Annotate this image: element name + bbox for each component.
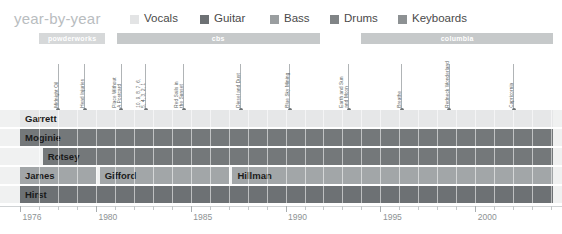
album-title-label: Red Sails in the Sunset (175, 74, 185, 108)
gridline (494, 110, 495, 206)
guitar-row-moginie: Moginie (0, 129, 562, 146)
gridline (267, 110, 268, 206)
axis-tick (456, 206, 457, 210)
legend-swatch-icon (130, 15, 139, 24)
axis-tick (58, 206, 59, 210)
axis-tick (323, 206, 324, 210)
gridline (39, 110, 40, 206)
era-bar-cbs[interactable]: cbs (117, 33, 320, 44)
gridline (323, 110, 324, 206)
axis-tick-label: 1985 (193, 213, 212, 222)
gridline (513, 110, 514, 206)
axis-tick (437, 206, 438, 210)
page-title: year-by-year (14, 10, 101, 27)
legend-label: Keyboards (412, 13, 467, 25)
legend-item-vocals[interactable]: Vocals (130, 12, 178, 26)
gridline (248, 110, 249, 206)
guitar-row-rotsey: Rotsey (0, 148, 562, 165)
legend-label: Vocals (144, 13, 178, 25)
axis-tick (380, 206, 381, 212)
era-label: cbs (212, 35, 225, 42)
album-marker[interactable]: Earth and Sun and Moon (348, 64, 349, 110)
legend-item-bass[interactable]: Bass (270, 12, 310, 26)
axis-tick (96, 206, 97, 212)
x-axis: 197619801985199019952000 (0, 206, 562, 234)
axis-tick (475, 206, 476, 212)
legend-swatch-icon (270, 15, 279, 24)
legend-label: Drums (344, 13, 378, 25)
album-title-label: Earth and Sun and Moon (341, 74, 351, 108)
gridline (96, 110, 97, 206)
axis-tick (551, 206, 552, 210)
member-segment-rotsey[interactable]: Rotsey (43, 148, 553, 165)
member-name-label: Moginie (25, 133, 61, 143)
axis-tick-label: 1990 (288, 213, 307, 222)
axis-tick-label: 1980 (98, 213, 117, 222)
gridline (532, 110, 533, 206)
gridline (153, 110, 154, 206)
axis-tick (115, 206, 116, 210)
era-label: columbia (441, 35, 474, 42)
gridline (475, 110, 476, 206)
axis-tick (267, 206, 268, 210)
album-title-label: Place Without A Postcard (113, 74, 123, 108)
album-marker[interactable]: Red Sails in the Sunset (183, 64, 184, 110)
gridline (134, 110, 135, 206)
album-marker[interactable]: Head Injuries (84, 64, 85, 110)
drums-row: Hirst (0, 186, 562, 203)
album-title-label: Capricornia (510, 83, 515, 108)
gridline (551, 110, 552, 206)
album-title-label: Breathe (398, 91, 403, 108)
gridline (210, 110, 211, 206)
gridline (172, 110, 173, 206)
member-name-label: Gifford (105, 171, 137, 181)
gridline (342, 110, 343, 206)
era-label: powderworks (48, 35, 96, 42)
album-marker[interactable]: Place Without A Postcard (121, 64, 122, 110)
axis-tick-label: 1995 (383, 213, 402, 222)
axis-tick (39, 206, 40, 210)
axis-tick (399, 206, 400, 210)
legend-item-drums[interactable]: Drums (330, 12, 378, 26)
album-marker[interactable]: Breathe (401, 64, 402, 110)
legend-swatch-icon (200, 15, 209, 24)
gridline (437, 110, 438, 206)
member-name-label: Hirst (25, 190, 47, 200)
album-title-label: Redneck Wonderland (446, 61, 451, 108)
album-title-label: Midnight Oil (55, 82, 60, 108)
axis-tick (172, 206, 173, 210)
album-title-label: Head Injuries (82, 79, 87, 108)
legend-label: Guitar (214, 13, 245, 25)
era-bar-powderworks[interactable]: powderworks (39, 33, 105, 44)
gridline (58, 110, 59, 206)
album-marker[interactable]: Redneck Wonderland (449, 64, 450, 110)
gridline (115, 110, 116, 206)
year-by-year-timeline-chart: year-by-year VocalsGuitarBassDrumsKeyboa… (0, 0, 562, 234)
axis-tick (134, 206, 135, 210)
axis-line (0, 206, 562, 207)
axis-tick (494, 206, 495, 210)
plot-area: GarrettMoginieRotseyJamesGiffordHillmanH… (0, 110, 562, 206)
gridline (229, 110, 230, 206)
era-bar-columbia[interactable]: columbia (361, 33, 553, 44)
axis-tick (248, 206, 249, 210)
bass-row: JamesGiffordHillman (0, 167, 562, 184)
gridline (399, 110, 400, 206)
axis-tick (342, 206, 343, 210)
axis-tick (210, 206, 211, 210)
axis-tick (513, 206, 514, 210)
axis-tick (229, 206, 230, 210)
album-marker[interactable]: Midnight Oil (58, 64, 59, 110)
member-segment-hillman[interactable]: Hillman (232, 167, 553, 184)
legend-item-keyboards[interactable]: Keyboards (398, 12, 467, 26)
album-marker[interactable]: Diesel and Dust (240, 64, 241, 110)
legend-item-guitar[interactable]: Guitar (200, 12, 245, 26)
album-marker[interactable]: Blue Sky Mining (289, 64, 290, 110)
axis-tick (20, 206, 21, 212)
axis-tick (361, 206, 362, 210)
gridline (456, 110, 457, 206)
album-marker[interactable]: 10, 9, 8, 7, 6, 5, 4, 3, 2, 1 (145, 64, 146, 110)
album-marker[interactable]: Capricornia (513, 64, 514, 110)
axis-tick (153, 206, 154, 210)
legend-label: Bass (284, 13, 310, 25)
